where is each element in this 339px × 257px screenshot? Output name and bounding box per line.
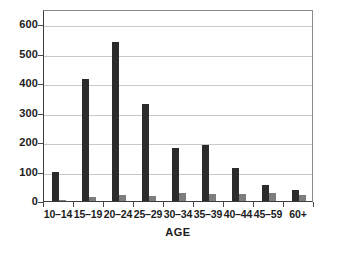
x-axis-tick-label: 45–59 — [253, 208, 283, 220]
bar-group — [292, 11, 306, 201]
x-axis-tick-label: 10–14 — [43, 208, 73, 220]
bar-secondary — [209, 194, 216, 201]
y-axis-tick-label: 500 — [19, 49, 38, 60]
bar-group — [232, 11, 246, 201]
x-axis-tick-label: 25–29 — [133, 208, 163, 220]
y-axis-tick-label: 100 — [19, 167, 38, 178]
x-axis-tick-mark — [193, 202, 194, 207]
x-axis-tick-mark — [223, 202, 224, 207]
bar-secondary — [269, 193, 276, 201]
x-axis-tick-mark — [283, 202, 284, 207]
y-axis-tick-label: 200 — [19, 137, 38, 148]
x-axis-tick-labels: 10–1415–1920–2425–2930–3435–3940–4445–59… — [43, 208, 313, 224]
bar-group — [82, 11, 96, 201]
bar-primary — [172, 148, 179, 201]
y-axis-tick-label: 300 — [19, 108, 38, 119]
x-axis-tick-label: 35–39 — [193, 208, 223, 220]
bar-primary — [202, 145, 209, 201]
x-axis-tick-mark — [133, 202, 134, 207]
bar-secondary — [239, 194, 246, 201]
bar-primary — [292, 190, 299, 201]
bar-secondary — [149, 196, 156, 201]
bar-secondary — [179, 193, 186, 201]
bar-primary — [142, 104, 149, 201]
bar-chart: 0100200300400500600 10–1415–1920–2425–29… — [0, 0, 339, 257]
x-axis-tick-label: 15–19 — [73, 208, 103, 220]
bar-group — [52, 11, 66, 201]
y-axis-tick-labels: 0100200300400500600 — [0, 0, 38, 257]
bar-secondary — [59, 200, 66, 201]
y-axis-tick-label: 400 — [19, 78, 38, 89]
bar-primary — [262, 185, 269, 201]
bar-group — [112, 11, 126, 201]
x-axis-tick-mark — [103, 202, 104, 207]
bar-primary — [52, 172, 59, 202]
bar-group — [172, 11, 186, 201]
x-axis-tick-label: 60+ — [283, 208, 313, 220]
y-axis-tick-label: 600 — [19, 19, 38, 30]
x-axis-tick-mark — [163, 202, 164, 207]
bar-group — [262, 11, 276, 201]
bars-layer — [44, 11, 312, 201]
x-axis-tick-label: 20–24 — [103, 208, 133, 220]
bar-group — [142, 11, 156, 201]
bar-group — [202, 11, 216, 201]
x-axis-tick-label: 30–34 — [163, 208, 193, 220]
bar-secondary — [299, 195, 306, 201]
x-axis-tick-mark — [313, 202, 314, 207]
x-axis-tick-label: 40–44 — [223, 208, 253, 220]
bar-secondary — [119, 195, 126, 201]
plot-area — [43, 10, 313, 202]
bar-secondary — [89, 197, 96, 201]
bar-primary — [82, 79, 89, 201]
bar-primary — [112, 42, 119, 201]
bar-primary — [232, 168, 239, 201]
x-axis-tick-mark — [43, 202, 44, 207]
x-axis-title: AGE — [43, 226, 313, 238]
x-axis-tick-mark — [253, 202, 254, 207]
x-axis-tick-mark — [73, 202, 74, 207]
